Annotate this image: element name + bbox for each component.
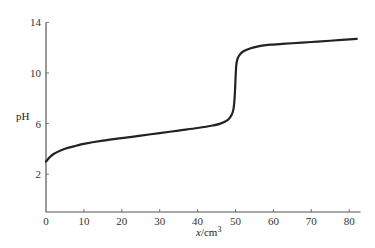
x-tick-label: 80 (344, 215, 356, 227)
x-axis-label-unit: /cm (201, 226, 218, 238)
x-tick-label: 50 (230, 215, 242, 227)
ph-curve (46, 39, 357, 162)
x-tick-label: 20 (116, 215, 128, 227)
y-tick-label: 10 (30, 67, 42, 79)
x-tick-label: 60 (268, 215, 280, 227)
y-tick-label: 14 (30, 16, 42, 28)
x-tick-label: 30 (154, 215, 166, 227)
x-tick-label: 70 (306, 215, 318, 227)
y-tick-label: 2 (36, 168, 42, 180)
x-tick-label: 10 (78, 215, 90, 227)
y-tick-label: 6 (36, 118, 42, 130)
x-axis-label: x/cm3 (195, 225, 221, 238)
axes (46, 22, 361, 212)
x-tick-label: 0 (43, 215, 49, 227)
x-axis-label-sup: 3 (217, 225, 221, 234)
y-axis-label: pH (16, 110, 30, 122)
titration-chart: 01020304050607080 261014 pH x/cm3 (0, 0, 375, 248)
